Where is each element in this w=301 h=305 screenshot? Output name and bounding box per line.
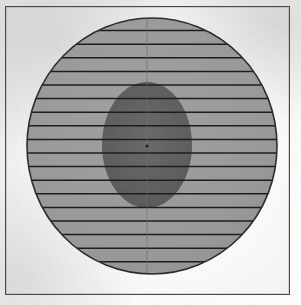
plot-area — [6, 7, 289, 294]
figure-root — [0, 0, 301, 305]
center-point-marker — [145, 144, 148, 147]
figure-canvas — [6, 7, 289, 294]
